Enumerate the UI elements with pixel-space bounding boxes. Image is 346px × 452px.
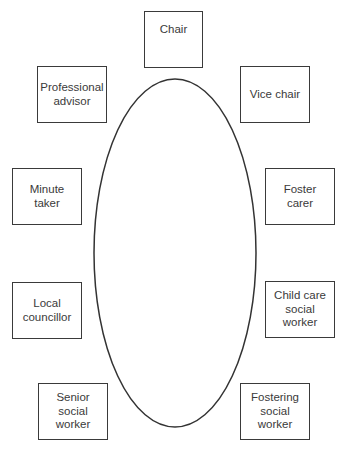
seat-chair: Chair [144, 11, 203, 68]
seat-local-councillor: Local councillor [12, 282, 82, 339]
seat-label: Chair [160, 23, 187, 37]
seat-child-care-social-worker: Child care social worker [265, 281, 335, 338]
seat-label: social [260, 405, 289, 419]
seat-label: carer [287, 197, 313, 211]
seat-label: councillor [23, 311, 72, 325]
table-ellipse [94, 79, 256, 427]
seat-label: taker [34, 197, 60, 211]
seat-label: worker [56, 418, 91, 432]
seat-label: Professional [40, 81, 103, 95]
seat-foster-carer: Foster carer [265, 168, 335, 225]
seat-label: advisor [53, 95, 90, 109]
seat-label: Minute [30, 183, 65, 197]
seat-label: Senior [56, 391, 89, 405]
seat-label: Foster [284, 183, 317, 197]
seat-label: Local [33, 297, 61, 311]
seat-label: Fostering [251, 391, 299, 405]
seat-label: Child care [274, 289, 326, 303]
seat-label: Vice chair [250, 88, 300, 102]
seat-fostering-social-worker: Fostering social worker [240, 383, 310, 440]
seat-vice-chair: Vice chair [240, 66, 310, 123]
seat-label: worker [283, 316, 318, 330]
seat-senior-social-worker: Senior social worker [38, 383, 108, 440]
seat-label: social [285, 303, 314, 317]
seat-professional-advisor: Professional advisor [37, 66, 107, 123]
seat-label: worker [258, 418, 293, 432]
seat-minute-taker: Minute taker [12, 168, 82, 225]
seat-label: social [58, 405, 87, 419]
